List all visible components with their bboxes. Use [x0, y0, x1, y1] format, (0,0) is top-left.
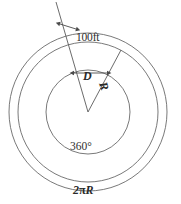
label-sector-width-d: D	[83, 70, 92, 82]
pi-glyph: π	[79, 183, 86, 197]
circle-sector-diagram: 100ft D R 360° 2πR	[0, 0, 181, 204]
label-circumference: 2πR	[73, 184, 94, 196]
outer-band-dimension-arrow	[60, 24, 76, 29]
label-full-angle: 360°	[70, 141, 92, 153]
label-outer-band-distance: 100ft	[76, 32, 99, 44]
circumference-radius-symbol: R	[86, 183, 94, 197]
sector-left-ray	[56, 2, 88, 112]
